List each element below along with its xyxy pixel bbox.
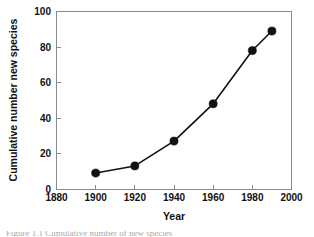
data-point[interactable]: [209, 100, 217, 108]
series-polyline: [96, 31, 272, 173]
figure-container: 100 80 60 40 20 0 1880 1900 1920 1940 19…: [0, 0, 314, 237]
x-tick-label: 1900: [85, 192, 108, 203]
data-point[interactable]: [131, 162, 139, 170]
line-chart: 100 80 60 40 20 0 1880 1900 1920 1940 19…: [0, 0, 314, 237]
x-tick-labels: 1880 1900 1920 1940 1960 1980 2000: [45, 192, 303, 203]
plot-frame: [57, 12, 292, 190]
y-tick-label: 80: [40, 42, 52, 53]
series-group: [92, 27, 276, 177]
data-point[interactable]: [170, 137, 178, 145]
y-axis-title: Cumulative number new species: [7, 18, 19, 181]
x-tick-label: 2000: [280, 192, 303, 203]
y-tick-label: 20: [40, 148, 52, 159]
data-point[interactable]: [248, 46, 256, 54]
figure-caption: Figure 1.1 Cumulative number of new spec…: [6, 231, 306, 237]
x-tick-label: 1960: [202, 192, 225, 203]
x-tick-label: 1980: [241, 192, 264, 203]
x-axis-title: Year: [163, 210, 185, 222]
y-tick-label: 100: [34, 6, 51, 17]
x-tick-label: 1880: [45, 192, 68, 203]
x-axis-ticks: [57, 185, 292, 189]
data-point[interactable]: [92, 169, 100, 177]
x-tick-label: 1940: [163, 192, 186, 203]
data-point[interactable]: [268, 27, 276, 35]
y-tick-labels: 100 80 60 40 20 0: [34, 6, 51, 195]
y-axis-ticks: [57, 12, 61, 190]
x-tick-label: 1920: [124, 192, 147, 203]
figure-caption-text: Figure 1.1 Cumulative number of new spec…: [6, 231, 306, 237]
y-tick-label: 60: [40, 77, 52, 88]
y-tick-label: 40: [40, 113, 52, 124]
